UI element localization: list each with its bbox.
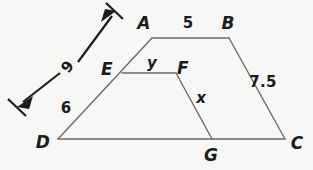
vertex-label-d: D [36, 134, 50, 151]
vertex-label-b: B [221, 15, 234, 32]
segment-label-ab: 5 [183, 16, 194, 31]
segment-label-de: 6 [61, 101, 72, 116]
vertex-label-e: E [101, 61, 113, 78]
segment-fg [176, 73, 212, 139]
vertex-label-a: A [137, 15, 150, 32]
arrowhead-lower [17, 96, 33, 109]
dimension-shaft-lower [23, 73, 60, 102]
dimension-shaft-upper [78, 16, 112, 62]
vertex-label-f: F [177, 60, 189, 77]
vertex-label-c: C [291, 135, 304, 152]
segment-da [58, 38, 152, 139]
segment-label-fg: x [196, 91, 206, 106]
segment-label-ef: y [147, 56, 157, 71]
vertex-label-g: G [204, 147, 218, 164]
geometry-figure: A B C D E F G 5 7.5 6 y x 9 [0, 0, 313, 170]
segment-label-bc: 7.5 [249, 75, 276, 90]
